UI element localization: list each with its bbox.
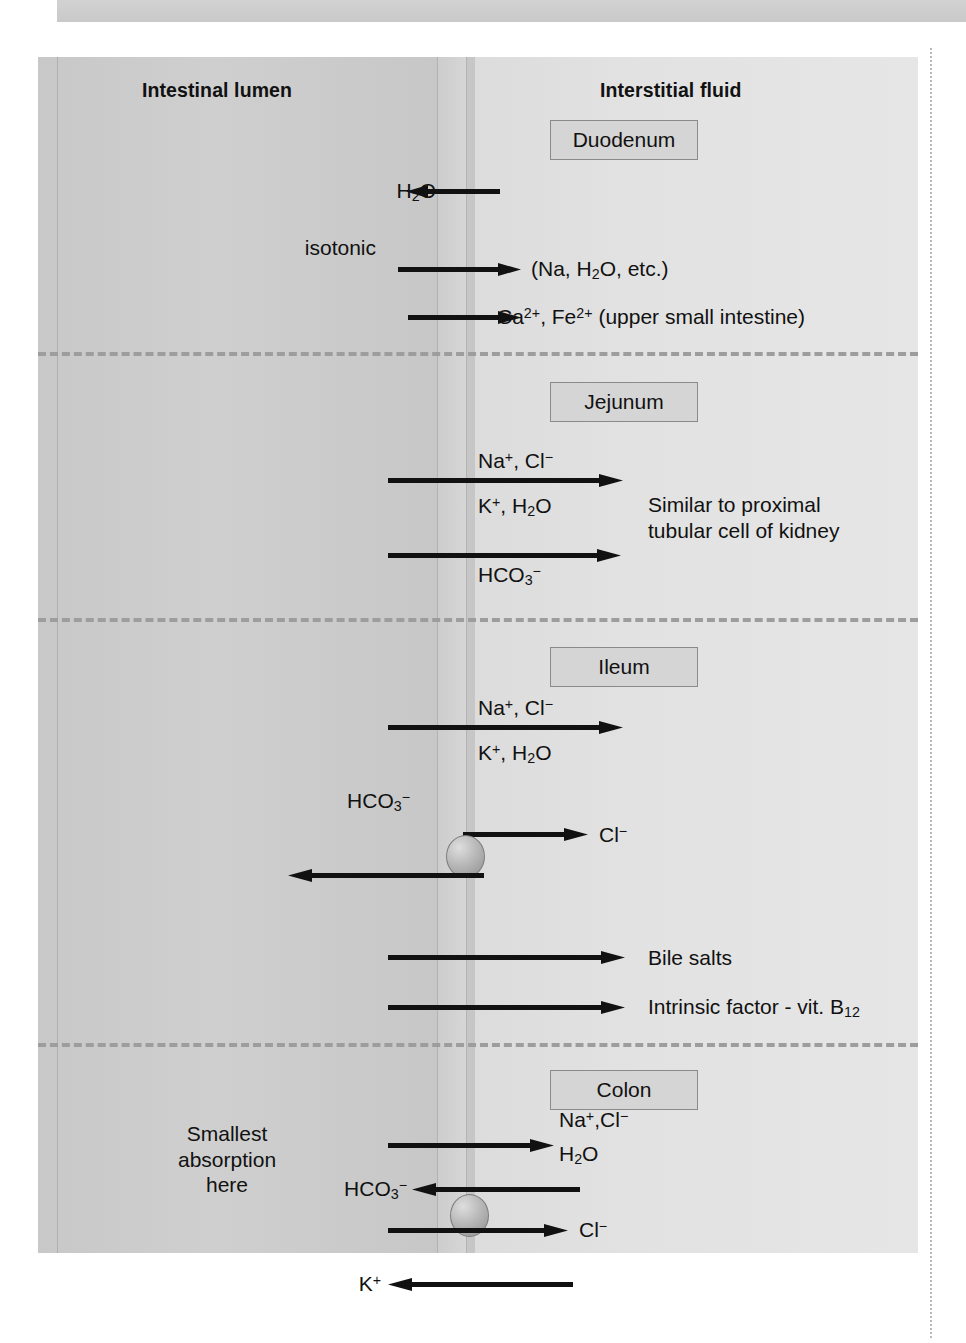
region-label-duodenum: Duodenum: [550, 120, 698, 160]
page-margin-rule: [930, 48, 932, 1338]
colon-h2o-label: H2O: [559, 1141, 598, 1169]
region-label-jejunum: Jejunum: [550, 382, 698, 422]
colon-na-cl-label: Na+,Cl−: [559, 1107, 628, 1133]
epithelial-membrane-column: [437, 57, 467, 1253]
colon-hco3-label: HCO3−: [344, 1176, 407, 1204]
region-label-colon: Colon: [550, 1070, 698, 1110]
colon-k-label: K+: [359, 1271, 381, 1297]
jejunum-kidney-note-label: Similar to proximal tubular cell of kidn…: [648, 492, 839, 543]
duodenum-ca-fe-label: Ca2+, Fe2+ (upper small intestine): [497, 304, 805, 330]
ileum-bile-salts-arrow: [388, 951, 625, 964]
jejunum-k-h2o-label: K+, H2O: [478, 493, 551, 521]
ileum-cl-label: Cl−: [599, 822, 627, 848]
jejunum-hco3-arrow: [388, 549, 621, 562]
ileum-na-cl-label: Na+, Cl−: [478, 695, 553, 721]
page-canvas: Intestinal lumen Interstitial fluid Duod…: [0, 0, 966, 1343]
ileum-intrinsic-factor-label: Intrinsic factor - vit. B12: [648, 994, 860, 1022]
ileum-hco3-exchange-arrow: [288, 869, 485, 882]
ileum-bile-salts-label: Bile salts: [648, 945, 732, 971]
ileum-k-h2o-label: K+, H2O: [478, 740, 551, 768]
lumen-column-header: Intestinal lumen: [142, 79, 292, 102]
colon-hco3-arrow: [412, 1183, 581, 1196]
colon-cl-arrow: [388, 1224, 568, 1237]
diagram-panel: Intestinal lumen Interstitial fluid Duod…: [38, 57, 918, 1253]
colon-k-arrow: [388, 1278, 574, 1291]
jejunum-na-cl-label: Na+, Cl−: [478, 448, 553, 474]
ileum-na-cl-k-h2o-arrow: [388, 721, 623, 734]
interstitial-column-header: Interstitial fluid: [600, 79, 742, 102]
duodenum-na-h2o-etc-label: (Na, H2O, etc.): [531, 256, 668, 284]
ileum-cl-exchange-arrow: [463, 828, 588, 841]
divider-ileum-colon: [38, 1043, 918, 1047]
jejunum-na-cl-k-h2o-arrow: [388, 474, 623, 487]
duodenum-isotonic-label: isotonic: [305, 235, 376, 261]
colon-smallest-absorption-label: Smallest absorption here: [178, 1121, 276, 1198]
colon-na-cl-h2o-arrow: [388, 1139, 554, 1152]
divider-duodenum-jejunum: [38, 352, 918, 356]
divider-jejunum-ileum: [38, 618, 918, 622]
duodenum-na-h2o-etc-arrow: [398, 263, 521, 276]
colon-cl-label: Cl−: [579, 1217, 607, 1243]
region-label-ileum: Ileum: [550, 647, 698, 687]
ileum-hco3-label: HCO3−: [347, 788, 410, 816]
intestinal-lumen-region: [38, 57, 475, 1253]
duodenum-h2o-arrow: [406, 185, 501, 198]
lumen-edge-line: [57, 57, 58, 1253]
jejunum-hco3-label: HCO3−: [478, 562, 541, 590]
scan-top-strip: [57, 0, 966, 22]
ileum-intrinsic-factor-arrow: [388, 1001, 625, 1014]
